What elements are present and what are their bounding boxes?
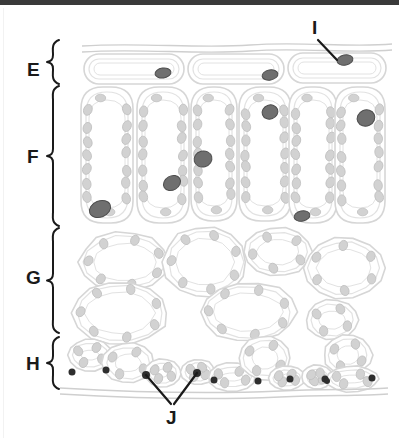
- tissue-layers-group: [68, 53, 386, 392]
- cuticle-top: [82, 50, 392, 53]
- chloroplast: [292, 177, 301, 189]
- chloroplast: [302, 94, 312, 102]
- brace-label-F: F: [27, 147, 39, 166]
- chloroplast: [253, 94, 263, 102]
- cell: [145, 359, 182, 387]
- chloroplast: [357, 208, 367, 216]
- cell: [78, 232, 170, 291]
- guard-cell-nucleus: [287, 376, 294, 383]
- chloroplast: [193, 136, 202, 148]
- vacuole: [298, 62, 376, 74]
- layer-spongy-mesophyll: [71, 227, 385, 344]
- cell: [201, 284, 298, 341]
- chloroplast: [161, 208, 171, 216]
- brace-E: [47, 40, 59, 84]
- vacuole: [145, 100, 181, 208]
- layer-upper-epidermis: [84, 53, 386, 84]
- cell: [244, 228, 313, 276]
- chloroplast: [248, 249, 257, 260]
- chloroplast: [337, 133, 346, 145]
- brace-G: [47, 228, 59, 333]
- pointer-label-J: J: [166, 408, 177, 427]
- brace-F: [47, 86, 59, 226]
- guard-cell-nucleus: [69, 369, 76, 376]
- chloroplast: [280, 298, 289, 309]
- chloroplast: [319, 326, 328, 337]
- cuticle-bottom: [60, 394, 388, 398]
- guard-cell-nucleus: [103, 367, 110, 374]
- chloroplast: [226, 188, 235, 200]
- chloroplast: [240, 150, 249, 162]
- chloroplast: [310, 208, 320, 216]
- brace-H: [47, 337, 59, 389]
- chloroplast: [95, 94, 105, 102]
- chloroplast: [343, 321, 352, 332]
- cell: [335, 87, 385, 223]
- cell: [137, 87, 189, 223]
- brace-label-G: G: [26, 268, 41, 287]
- chloroplast: [291, 108, 300, 119]
- cell: [71, 283, 166, 344]
- guard-cell-nucleus: [369, 375, 376, 382]
- chloroplast: [242, 135, 250, 146]
- diagram-canvas: [0, 0, 399, 440]
- brace-label-E: E: [27, 60, 40, 79]
- cell: [288, 53, 386, 83]
- chloroplast: [121, 177, 130, 189]
- chloroplast: [115, 369, 124, 380]
- pointer-label-I: I: [312, 18, 317, 37]
- chloroplast: [138, 165, 147, 176]
- chloroplast: [226, 135, 235, 147]
- chloroplast: [349, 94, 359, 102]
- chloroplast: [263, 206, 273, 214]
- cell: [304, 238, 386, 299]
- chloroplast: [220, 377, 229, 388]
- chloroplast: [325, 192, 334, 204]
- chloroplast: [151, 94, 161, 102]
- guard-cell-nucleus: [255, 378, 262, 385]
- leaf-cross-section-figure: E F G H I J: [0, 0, 399, 440]
- chloroplast: [338, 195, 347, 206]
- chloroplast: [367, 273, 376, 284]
- guard-cell-nucleus: [324, 378, 330, 384]
- chloroplast: [211, 206, 221, 214]
- guard-cell-nucleus: [211, 377, 218, 384]
- cell: [289, 87, 337, 223]
- vacuole: [89, 100, 125, 208]
- cuticle-top: [82, 44, 392, 47]
- chloroplast: [252, 365, 261, 376]
- vacuole: [297, 100, 329, 208]
- chloroplast: [203, 94, 213, 102]
- cell: [307, 300, 359, 340]
- chloroplast: [332, 371, 341, 382]
- brace-label-H: H: [26, 354, 40, 373]
- brace-group: [47, 40, 59, 389]
- layer-palisade-mesophyll: [81, 87, 385, 223]
